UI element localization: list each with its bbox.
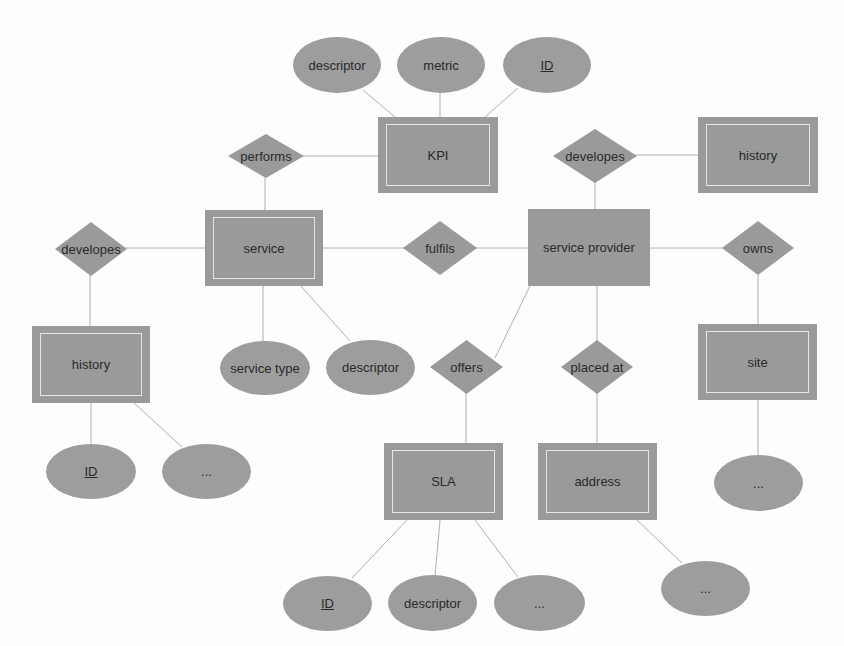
attribute-label: ID [85, 464, 98, 479]
attribute-kpi-descriptor: descriptor [293, 37, 381, 93]
entity-label: SLA [431, 474, 456, 489]
attribute-sla-more: ... [494, 575, 585, 631]
attribute-label: ID [321, 596, 334, 611]
entity-label: history [72, 357, 110, 372]
entity-label: history [739, 148, 777, 163]
connector-lines [0, 0, 844, 646]
attribute-label: ... [534, 596, 545, 611]
attribute-site-more: ... [714, 455, 803, 511]
attribute-label: ... [201, 464, 212, 479]
relationship-owns: owns [722, 221, 794, 275]
entity-service: service [205, 210, 323, 286]
attribute-label: ... [753, 476, 764, 491]
attribute-kpi-id: ID [503, 37, 591, 93]
attribute-label: service type [230, 361, 299, 376]
entity-address: address [538, 443, 657, 520]
attribute-sla-descriptor: descriptor [388, 575, 477, 631]
entity-label: service [243, 241, 284, 256]
attribute-sla-id: ID [283, 576, 372, 631]
attribute-service-descriptor: descriptor [326, 340, 415, 395]
entity-site: site [698, 324, 817, 400]
attribute-label: ... [700, 581, 711, 596]
attribute-label: ID [541, 58, 554, 73]
entity-label: service provider [543, 240, 635, 255]
relationship-placed-at: placed at [561, 340, 633, 394]
relationship-performs: performs [228, 134, 304, 178]
relationship-label: owns [743, 241, 773, 256]
attribute-history-id: ID [46, 444, 136, 499]
relationship-fulfils: fulfils [403, 221, 477, 275]
relationship-developes-top: developes [553, 129, 637, 183]
attribute-service-type: service type [220, 341, 310, 395]
entity-sla: SLA [384, 443, 503, 520]
entity-history-left: history [32, 326, 150, 403]
entity-label: KPI [428, 148, 449, 163]
relationship-label: offers [450, 360, 482, 375]
relationship-label: performs [240, 149, 291, 164]
attribute-label: descriptor [404, 596, 461, 611]
relationship-label: fulfils [425, 241, 455, 256]
entity-kpi: KPI [378, 117, 498, 193]
entity-service-provider: service provider [528, 209, 650, 286]
relationship-label: developes [565, 149, 624, 164]
entity-history-top: history [698, 117, 818, 193]
attribute-address-more: ... [661, 561, 750, 616]
attribute-history-more: ... [162, 444, 251, 499]
relationship-label: placed at [571, 360, 624, 375]
attribute-kpi-metric: metric [397, 37, 485, 93]
entity-label: site [747, 355, 767, 370]
relationship-offers: offers [430, 340, 503, 394]
er-diagram: descriptor metric ID KPI performs develo… [0, 0, 844, 646]
attribute-label: descriptor [342, 360, 399, 375]
entity-label: address [574, 474, 620, 489]
relationship-developes-left: developes [55, 222, 127, 276]
attribute-label: metric [423, 58, 458, 73]
attribute-label: descriptor [308, 58, 365, 73]
relationship-label: developes [61, 242, 120, 257]
